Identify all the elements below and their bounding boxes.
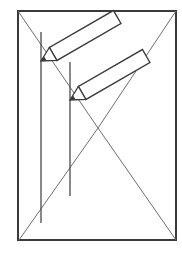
lower-triangle [19, 128, 176, 240]
pencil-icon [37, 11, 121, 68]
pencil-icon [66, 50, 150, 107]
pencil-diagram [0, 0, 182, 256]
